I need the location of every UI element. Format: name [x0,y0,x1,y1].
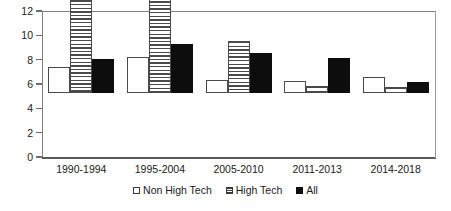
bar [363,77,385,93]
y-axis-tick-label: 0 [3,152,33,163]
category-label: 2005-2010 [213,163,263,175]
legend-label: Non High Tech [143,184,212,196]
legend-item[interactable]: Non High Tech [133,184,212,196]
x-axis-baseline [42,157,436,159]
category-label: 1995-2004 [135,163,185,175]
legend-item[interactable]: All [296,184,318,196]
bar [407,82,429,93]
legend-item[interactable]: High Tech [226,184,283,196]
legend-label: All [306,184,318,196]
legend-swatch-icon [133,187,140,194]
y-axis-tick [36,156,42,157]
legend-label: High Tech [236,184,283,196]
bar-chart: 024681012 1990-19941995-20042005-2010201… [0,0,451,211]
bar [385,87,407,93]
category-label: 1990-1994 [56,163,106,175]
category-label: 2014-2018 [371,163,421,175]
legend-swatch-icon [296,187,303,194]
category-label: 2011-2013 [292,163,341,175]
chart-legend: Non High TechHigh TechAll [0,184,451,196]
bar-group [0,0,451,147]
legend-swatch-icon [226,187,233,194]
